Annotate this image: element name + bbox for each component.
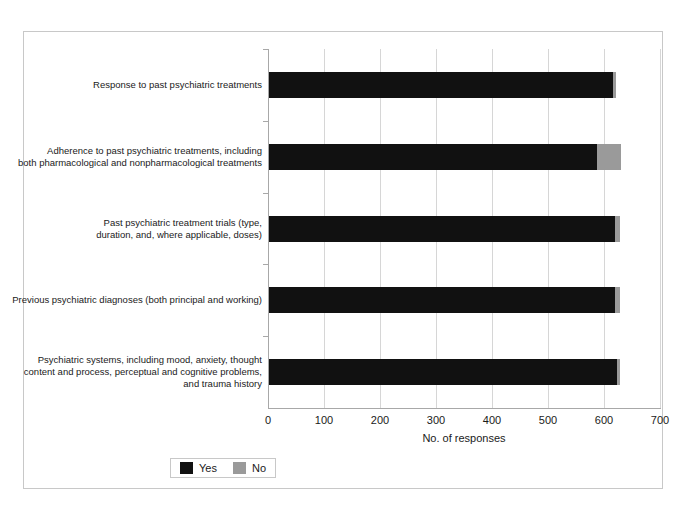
x-axis-tick-label: 200 (371, 414, 389, 426)
legend-swatch-icon (180, 462, 193, 474)
y-axis-line (268, 49, 269, 408)
chart-legend: YesNo (170, 458, 276, 478)
scan-artifact (96, 2, 136, 12)
category-label: Past psychiatric treatment trials (type,… (12, 217, 262, 241)
chart-figure: Psychiatric systems, including mood, anx… (23, 31, 663, 489)
x-axis-tick-label: 100 (315, 414, 333, 426)
y-axis-tick (263, 49, 268, 50)
legend-item: Yes (180, 462, 217, 474)
x-axis-tick-label: 500 (539, 414, 557, 426)
category-label: Psychiatric systems, including mood, anx… (12, 354, 262, 390)
bar-segment-no (617, 359, 620, 385)
x-axis-line (268, 408, 661, 409)
bar-segment-yes (268, 144, 597, 170)
x-axis-tick-label: 700 (651, 414, 669, 426)
legend-item: No (233, 462, 266, 474)
bar-segment-yes (268, 287, 615, 313)
legend-label: Yes (199, 462, 217, 474)
x-axis-tick-label: 300 (427, 414, 445, 426)
x-axis-tick-label: 0 (265, 414, 271, 426)
bar-segment-yes (268, 359, 617, 385)
y-axis-tick (263, 121, 268, 122)
bar-segment-no (597, 144, 621, 170)
y-axis-tick (263, 193, 268, 194)
bar-segment-yes (268, 216, 615, 242)
bar-segment-no (613, 72, 616, 98)
category-label: Adherence to past psychiatric treatments… (12, 145, 262, 169)
legend-label: No (252, 462, 266, 474)
y-axis-tick (263, 264, 268, 265)
category-label: Response to past psychiatric treatments (12, 79, 262, 91)
bar-segment-no (615, 216, 619, 242)
bar-segment-no (615, 287, 619, 313)
x-axis-tick-label: 600 (595, 414, 613, 426)
legend-swatch-icon (233, 462, 246, 474)
bar-segment-yes (268, 72, 613, 98)
plot-area: Psychiatric systems, including mood, anx… (268, 49, 660, 408)
gridline (660, 49, 661, 408)
x-axis-tick-label: 400 (483, 414, 501, 426)
y-axis-tick (263, 336, 268, 337)
category-label: Previous psychiatric diagnoses (both pri… (12, 294, 262, 306)
x-axis-title: No. of responses (268, 432, 660, 444)
